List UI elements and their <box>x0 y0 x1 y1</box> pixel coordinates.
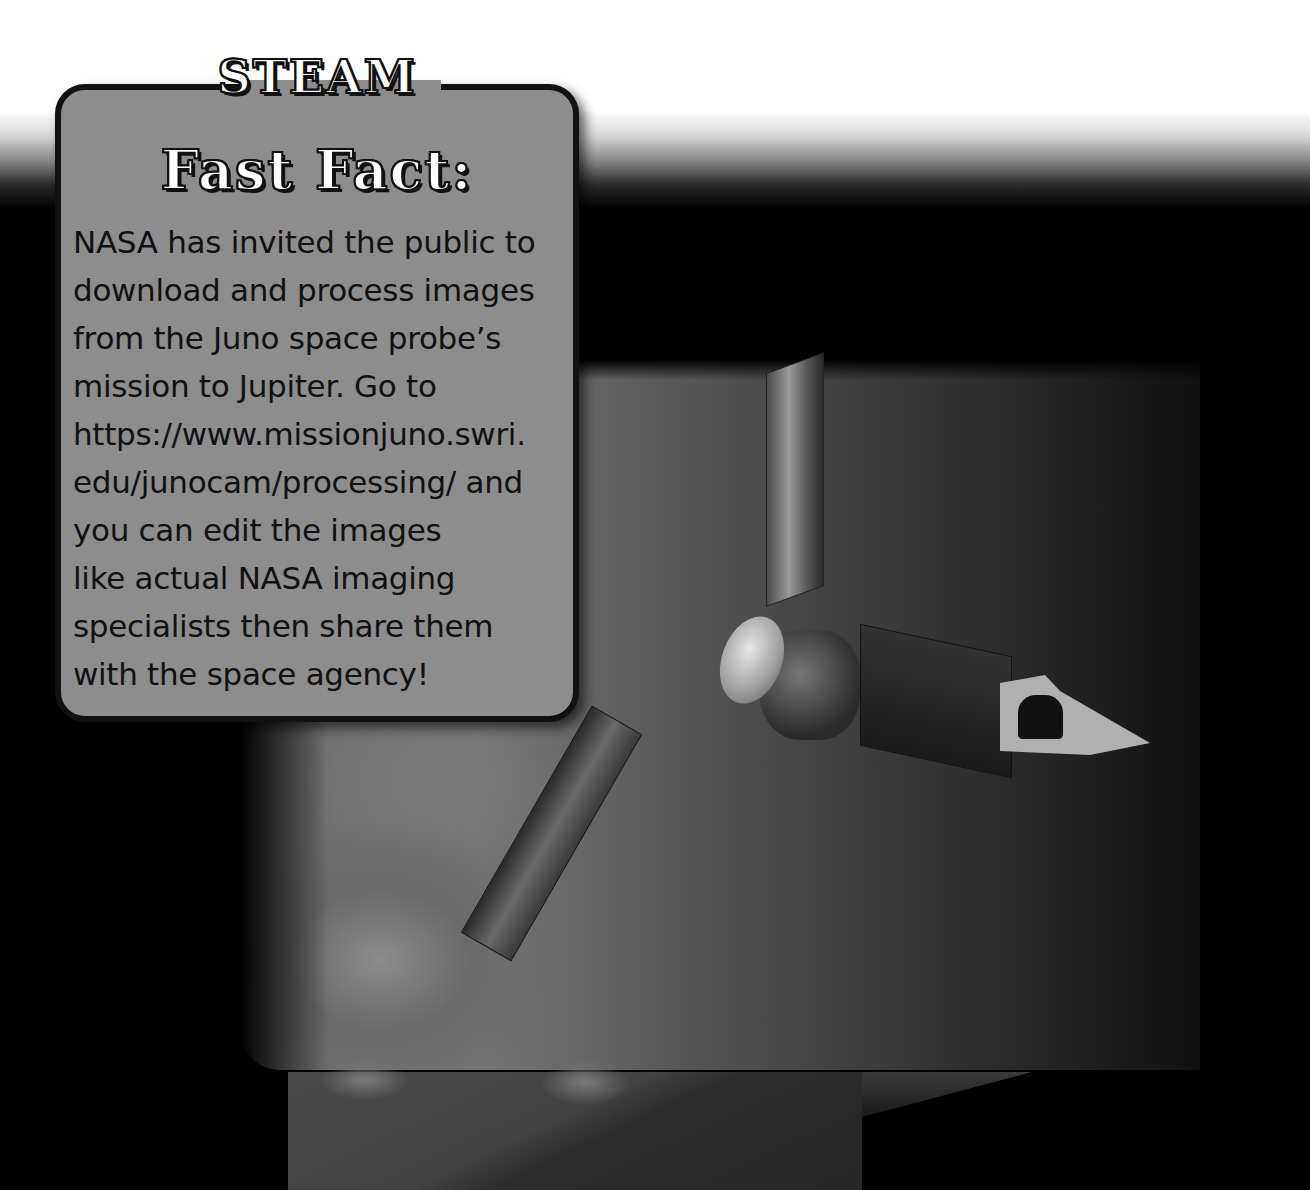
fact-url-line: edu/junocam/processing/ and <box>73 458 563 506</box>
fact-line: download and process images <box>73 266 563 314</box>
fact-body-text: NASA has invited the public to download … <box>73 218 563 698</box>
shadow-wedge <box>862 1072 1032 1117</box>
cloud-glow <box>540 1060 630 1105</box>
solar-panel-upper <box>766 352 824 607</box>
steam-fast-fact-box: STEAM Fast Fact: NASA has invited the pu… <box>55 84 579 722</box>
fact-line: with the space agency! <box>73 650 563 698</box>
fact-line: you can edit the images <box>73 506 563 554</box>
fact-line: like actual NASA imaging <box>73 554 563 602</box>
fact-line: from the Juno space probe’s <box>73 314 563 362</box>
fact-url-line: https://www.missionjuno.swri. <box>73 410 563 458</box>
fact-line: specialists then share them <box>73 602 563 650</box>
cloud-glow <box>320 1060 410 1100</box>
fact-line: NASA has invited the public to <box>73 218 563 266</box>
fact-title-fast-fact: Fast Fact: <box>61 138 573 202</box>
fact-title-steam: STEAM <box>61 50 573 104</box>
fact-line: mission to Jupiter. Go to <box>73 362 563 410</box>
